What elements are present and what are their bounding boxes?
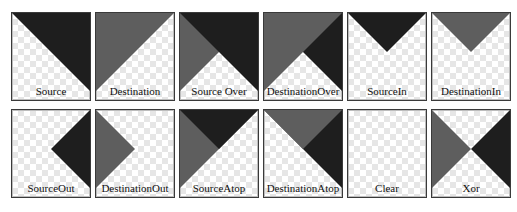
mode-clear: Clear	[347, 109, 427, 198]
mode-label: SourceIn	[348, 85, 426, 97]
mode-destination-atop: DestinationAtop	[263, 109, 343, 198]
destination-triangle-icon	[96, 13, 174, 91]
mode-xor: Xor	[431, 109, 511, 198]
source-in-icon	[348, 13, 426, 91]
porter-duff-modes-grid: Source Destination Source Over Destinati…	[11, 12, 511, 198]
mode-label: DestinationIn	[432, 85, 510, 97]
destination-over-icon	[264, 13, 342, 91]
mode-source-over: Source Over	[179, 12, 259, 101]
xor-icon	[432, 110, 510, 188]
mode-label: Clear	[348, 182, 426, 194]
destination-out-icon	[96, 110, 174, 188]
mode-label: Source Over	[180, 85, 258, 97]
mode-source-in: SourceIn	[347, 12, 427, 101]
mode-label: SourceOut	[12, 182, 90, 194]
mode-source-atop: SourceAtop	[179, 109, 259, 198]
destination-in-icon	[432, 13, 510, 91]
mode-destination-over: DestinationOver	[263, 12, 343, 101]
mode-label: Destination	[96, 85, 174, 97]
mode-label: SourceAtop	[180, 182, 258, 194]
mode-source-out: SourceOut	[11, 109, 91, 198]
mode-label: DestinationOver	[264, 85, 342, 97]
destination-atop-icon	[264, 110, 342, 188]
mode-label: DestinationOut	[96, 182, 174, 194]
mode-destination-out: DestinationOut	[95, 109, 175, 198]
mode-destination-in: DestinationIn	[431, 12, 511, 101]
mode-label: Source	[12, 85, 90, 97]
mode-label: DestinationAtop	[264, 182, 342, 194]
source-out-icon	[12, 110, 90, 188]
source-over-icon	[180, 13, 258, 91]
mode-label: Xor	[432, 182, 510, 194]
source-atop-icon	[180, 110, 258, 188]
mode-destination: Destination	[95, 12, 175, 101]
mode-source: Source	[11, 12, 91, 101]
source-triangle-icon	[12, 13, 90, 91]
